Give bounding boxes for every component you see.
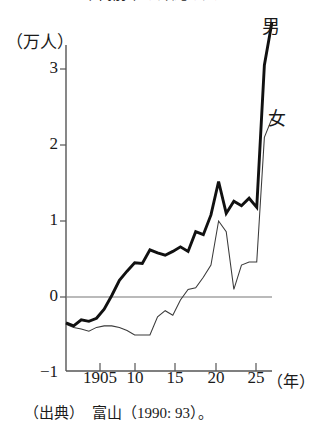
x-tick-label-20: 20 bbox=[203, 368, 229, 388]
chart-plot-area: （万人） 3 2 1 0 −1 1905 10 15 20 25 （年） 男 女 bbox=[0, 0, 310, 395]
series-label-female: 女 bbox=[268, 104, 286, 130]
figure-root: 1/35—1/25 年代前半の沖縄の入 （万人） bbox=[0, 0, 310, 429]
x-tick-label-25: 25 bbox=[243, 368, 269, 388]
x-tick-label-10: 10 bbox=[122, 368, 148, 388]
x-tick-label-1905: 1905 bbox=[76, 368, 124, 388]
series-label-male: 男 bbox=[262, 12, 280, 38]
y-tick-label-3: 3 bbox=[36, 58, 58, 78]
y-tick-label-2: 2 bbox=[36, 134, 58, 154]
y-axis-unit-label: （万人） bbox=[6, 28, 74, 53]
x-tick-label-15: 15 bbox=[162, 368, 188, 388]
y-tick-label-0: 0 bbox=[36, 286, 58, 306]
source-note: （出典） 富山（1990: 93）。 bbox=[24, 401, 213, 422]
y-tick-label-minus-1: −1 bbox=[24, 362, 58, 382]
series-line-female bbox=[66, 118, 272, 335]
y-tick-label-1: 1 bbox=[36, 210, 58, 230]
series-line-male bbox=[66, 22, 272, 326]
x-axis-unit-label: （年） bbox=[267, 368, 310, 392]
